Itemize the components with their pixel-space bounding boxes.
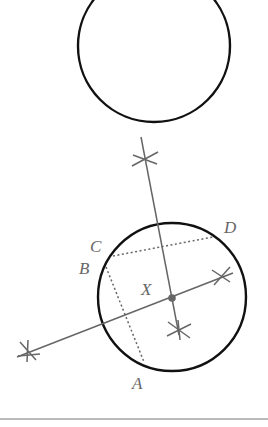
label-x: X [140,280,152,299]
geometry-diagram: C B D X A [0,0,268,427]
chord-ab-dotted [106,267,144,362]
top-circle [78,0,230,122]
label-a: A [131,374,143,393]
bisector-line-vertical [141,137,179,335]
cross-mark-bottom [167,320,191,340]
cross-mark-left [18,340,40,362]
label-b: B [79,259,90,278]
center-point-x [168,294,176,302]
label-d: D [223,218,237,237]
bisector-line-horizontal [17,273,233,357]
label-c: C [90,237,102,256]
